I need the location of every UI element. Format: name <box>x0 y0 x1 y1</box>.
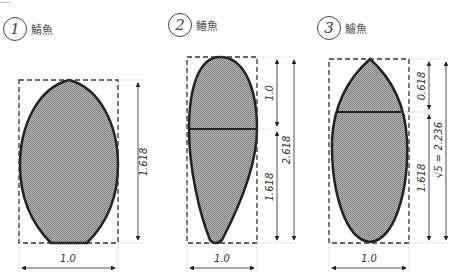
figure-3-bottom-label: 1.618 <box>416 164 427 193</box>
figure-3-total-label: √5 = 2.236 <box>433 122 444 178</box>
figure-2-shape <box>189 57 257 243</box>
figure-2-bottom-label: 1.618 <box>264 173 275 202</box>
figure-2-total-label: 2.618 <box>281 136 292 165</box>
figure-2: 1.0 1.618 2.618 1.0 <box>187 57 297 272</box>
figure-2-width-label: 1.0 <box>214 253 230 264</box>
figure-3-width-label: 1.0 <box>361 253 377 264</box>
figure-3-shape <box>332 59 407 242</box>
figure-2-top-label: 1.0 <box>264 85 275 101</box>
figure-1-shape <box>20 80 118 243</box>
figure-3-top-label: 0.618 <box>416 72 427 101</box>
figure-1-height-label: 1.618 <box>138 148 149 177</box>
figure-1-width-label: 1.0 <box>60 253 76 264</box>
figure-3: 0.618 1.618 √5 = 2.236 1.0 <box>329 59 449 272</box>
figure-1: 1.618 1.0 <box>19 80 149 272</box>
diagram-canvas: 1.618 1.0 1.0 1.618 2.618 1.0 0.618 1 <box>0 0 452 276</box>
